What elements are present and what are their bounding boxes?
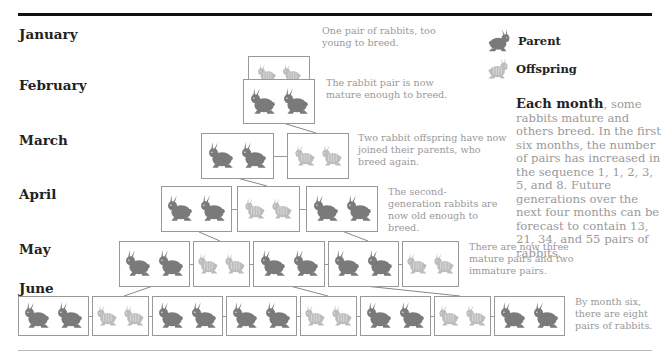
legend-parent: Parent (486, 28, 561, 54)
parent-rabbit-icon (156, 301, 186, 331)
offspring-rabbit-icon (223, 252, 247, 276)
parent-rabbit-icon (344, 194, 374, 224)
lineage-line (365, 286, 460, 296)
parent-rabbit-icon (291, 249, 321, 279)
offspring-rabbit-icon (432, 252, 456, 276)
bottom-rule (18, 350, 652, 351)
top-rule (18, 13, 652, 16)
parent-rabbit-icon (332, 249, 362, 279)
sibling-connector (431, 316, 434, 317)
legend-parent-label: Parent (518, 34, 561, 48)
offspring-pair-box (92, 296, 149, 336)
parent-rabbit-icon (311, 194, 341, 224)
explanation-text: Each month, some rabbits mature and othe… (516, 97, 662, 260)
month-label-march: March (19, 132, 68, 148)
month-note: One pair of rabbits, too young to breed. (322, 25, 452, 49)
parent-rabbit-icon (123, 249, 153, 279)
parent-rabbit-icon (165, 194, 195, 224)
parent-pair-box (306, 186, 378, 232)
parent-pair-box (201, 133, 274, 179)
parent-pair-box (243, 79, 315, 124)
lineage-line (124, 286, 153, 296)
lineage-line (342, 231, 368, 241)
offspring-rabbit-icon (270, 197, 294, 221)
month-note: The rabbit pair is now mature enough to … (326, 77, 456, 101)
offspring-rabbit-icon (320, 144, 344, 168)
parent-rabbit-icon (531, 301, 561, 331)
lineage-line (290, 286, 328, 296)
month-label-may: May (19, 241, 51, 257)
parent-rabbit-icon (239, 141, 269, 171)
parent-rabbit-icon (248, 87, 278, 117)
parent-rabbit-icon (22, 301, 52, 331)
parent-pair-box (494, 296, 565, 336)
lineage-line (237, 178, 267, 186)
sibling-connector (399, 264, 402, 265)
parent-pair-box (18, 296, 89, 336)
explanation-body: , some rabbits mature and others breed. … (516, 97, 661, 260)
sibling-connector (274, 156, 287, 157)
offspring-rabbit-icon (330, 304, 354, 328)
parent-pair-box (152, 296, 223, 336)
offspring-rabbit-icon (303, 304, 327, 328)
month-label-june: June (19, 280, 54, 296)
offspring-rabbit-icon (437, 304, 461, 328)
legend-offspring: Offspring (486, 57, 577, 81)
offspring-rabbit-icon (196, 252, 220, 276)
explanation-lead: Each month (516, 96, 604, 111)
sibling-connector (297, 316, 300, 317)
lineage-line (283, 123, 316, 133)
parent-rabbit-icon (397, 301, 427, 331)
offspring-pair-box (287, 133, 349, 179)
offspring-rabbit-icon (122, 304, 146, 328)
sibling-connector (232, 209, 237, 210)
month-label-january: January (19, 26, 77, 42)
offspring-rabbit-icon (405, 252, 429, 276)
parent-pair-box (226, 296, 297, 336)
sibling-connector (190, 264, 193, 265)
offspring-rabbit-icon (95, 304, 119, 328)
parent-rabbit-icon (365, 249, 395, 279)
parent-rabbit-icon (156, 249, 186, 279)
sibling-connector (149, 316, 152, 317)
parent-rabbit-icon (486, 28, 512, 54)
offspring-pair-box (237, 186, 300, 232)
sibling-connector (89, 316, 92, 317)
sibling-connector (325, 264, 328, 265)
parent-pair-box (360, 296, 431, 336)
sibling-connector (250, 264, 253, 265)
parent-pair-box (328, 241, 399, 287)
month-label-april: April (19, 186, 56, 202)
offspring-pair-box (434, 296, 491, 336)
sibling-connector (357, 316, 360, 317)
parent-rabbit-icon (55, 301, 85, 331)
parent-pair-box (253, 241, 325, 287)
parent-rabbit-icon (198, 194, 228, 224)
parent-rabbit-icon (263, 301, 293, 331)
parent-pair-box (161, 186, 232, 232)
offspring-pair-box (193, 241, 250, 287)
parent-rabbit-icon (364, 301, 394, 331)
offspring-pair-box (402, 241, 459, 287)
parent-rabbit-icon (230, 301, 260, 331)
parent-pair-box (119, 241, 190, 287)
offspring-rabbit-icon (293, 144, 317, 168)
offspring-pair-box (300, 296, 357, 336)
parent-rabbit-icon (258, 249, 288, 279)
offspring-rabbit-icon (243, 197, 267, 221)
month-label-february: February (19, 77, 87, 93)
sibling-connector (491, 316, 494, 317)
offspring-rabbit-icon (464, 304, 488, 328)
parent-rabbit-icon (206, 141, 236, 171)
parent-rabbit-icon (281, 87, 311, 117)
lineage-line (199, 232, 220, 241)
month-note: By month six, there are eight pairs of r… (575, 296, 665, 332)
sibling-connector (223, 316, 226, 317)
parent-rabbit-icon (498, 301, 528, 331)
parent-rabbit-icon (189, 301, 219, 331)
month-note: Two rabbit offspring have now joined the… (358, 132, 508, 168)
month-note: The second-generation rabbits are now ol… (388, 186, 498, 234)
legend-offspring-label: Offspring (516, 62, 577, 76)
sibling-connector (300, 209, 306, 210)
offspring-rabbit-icon (486, 57, 510, 81)
